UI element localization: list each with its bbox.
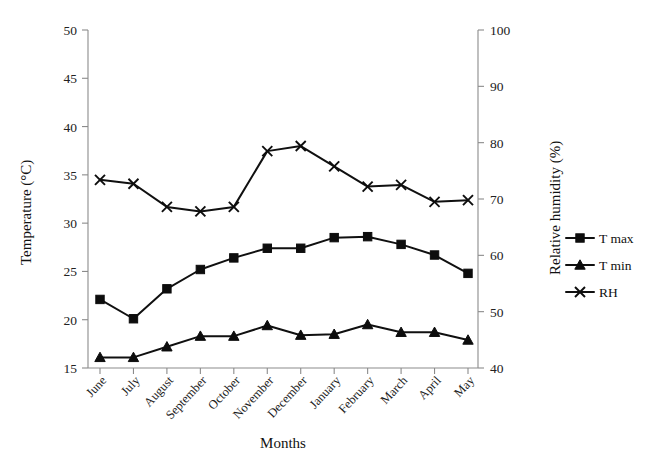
y2-tick-label: 40: [490, 361, 504, 376]
y-tick-label: 20: [64, 313, 78, 328]
chart-legend: T maxT minRH: [566, 231, 634, 300]
y2-tick-label: 80: [490, 136, 504, 151]
y-tick-label: 45: [64, 71, 78, 86]
x-tick-label-february: February: [336, 373, 378, 416]
legend-item-rh[interactable]: RH: [566, 285, 618, 300]
axis-left: 1520253035404550: [64, 23, 89, 376]
x-axis-title: Months: [260, 435, 306, 451]
y-tick-label: 15: [64, 361, 78, 376]
legend-item-t-min[interactable]: T min: [566, 258, 632, 273]
y-tick-label: 40: [64, 120, 78, 135]
x-tick-label-june: June: [83, 373, 109, 400]
climate-line-chart: 1520253035404550 405060708090100 JuneJul…: [0, 0, 647, 460]
y-axis-title: Temperature (°C): [18, 160, 35, 265]
series-t-min: [95, 319, 473, 361]
series-t-max: [96, 232, 472, 322]
chart-canvas: 1520253035404550 405060708090100 JuneJul…: [0, 0, 647, 460]
legend-label: RH: [599, 285, 618, 300]
y2-tick-label: 50: [490, 305, 504, 320]
y2-tick-label: 100: [490, 23, 511, 38]
x-tick-label-april: April: [416, 373, 445, 402]
axis-bottom: JuneJulyAugustSeptemberOctoberNovemberDe…: [83, 368, 478, 422]
x-tick-label-july: July: [118, 373, 143, 398]
series-layer: [95, 141, 473, 362]
y-tick-label: 30: [64, 216, 78, 231]
legend-label: T max: [599, 231, 634, 246]
x-tick-label-march: March: [378, 373, 411, 407]
x-tick-label-may: May: [451, 373, 477, 400]
series-rh: [95, 141, 473, 216]
y-tick-label: 35: [64, 168, 78, 183]
y2-tick-label: 70: [490, 192, 504, 207]
y2-tick-label: 90: [490, 79, 504, 94]
y-tick-label: 25: [64, 264, 78, 279]
y2-axis-title: Relative humidity (%): [547, 141, 564, 275]
legend-label: T min: [599, 258, 632, 273]
y-tick-label: 50: [64, 23, 78, 38]
legend-item-t-max[interactable]: T max: [566, 231, 634, 246]
y2-tick-label: 60: [490, 248, 504, 263]
axis-right: 405060708090100: [478, 23, 511, 376]
